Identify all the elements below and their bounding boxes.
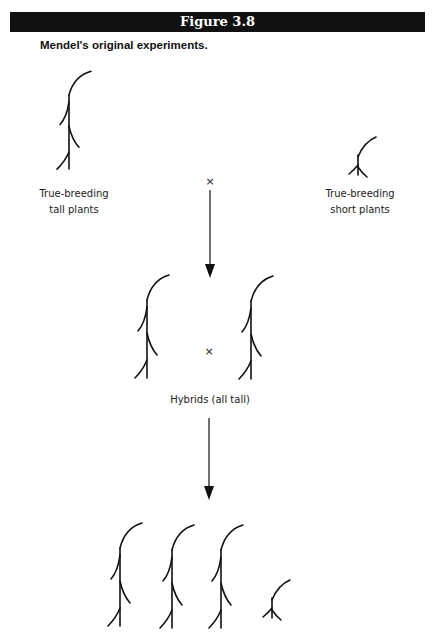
arrow-down-icon xyxy=(205,190,215,278)
label-line: True-breeding xyxy=(34,186,114,202)
cross-symbol: × xyxy=(200,174,220,190)
arrow-down-icon xyxy=(204,418,214,500)
cross-symbol: × xyxy=(199,344,219,360)
f2-tall-plant-1 xyxy=(108,523,142,626)
hybrids-label: Hybrids (all tall) xyxy=(150,392,270,408)
f2-tall-plant-3 xyxy=(209,525,243,628)
label-line: tall plants xyxy=(34,202,114,218)
mendel-diagram xyxy=(0,0,437,638)
f2-tall-plant-2 xyxy=(160,525,194,628)
short-parent-label: True-breeding short plants xyxy=(320,186,400,218)
tall-parent-label: True-breeding tall plants xyxy=(34,186,114,218)
hybrid-plant-left xyxy=(135,275,169,378)
label-line: True-breeding xyxy=(320,186,400,202)
hybrid-plant-right xyxy=(239,276,273,379)
short-parent-plant xyxy=(349,137,376,177)
label-line: short plants xyxy=(320,202,400,218)
f2-short-plant xyxy=(263,580,290,620)
tall-parent-plant xyxy=(57,71,91,169)
